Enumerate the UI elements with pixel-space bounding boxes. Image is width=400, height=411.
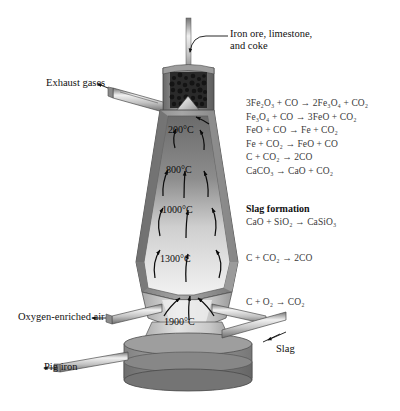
slag-formation-heading: Slag formation — [246, 203, 336, 214]
callout-charge: Iron ore, limestone, and coke — [230, 28, 312, 52]
reaction-line: Fe + CO₂ → FeO + CO — [246, 138, 368, 152]
reaction-line: Fe₃O₄ + CO → 3FeO + CO₂ — [246, 111, 368, 125]
temperature-label-1000c: 1000°C — [162, 204, 193, 215]
reaction-line: 3Fe₂O₃ + CO → 2Fe₃O₄ + CO₂ — [246, 97, 368, 111]
reaction-line: FeO + CO → Fe + CO₂ — [246, 124, 368, 138]
slag-formation-block: Slag formation CaO + SiO₂ → CaSiO₃ — [246, 203, 336, 230]
exhaust-gas-pipe — [108, 87, 163, 112]
callout-oxygen-enriched-air: Oxygen-enriched air — [18, 311, 105, 323]
callout-slag: Slag — [276, 343, 295, 355]
callout-charge-line1: Iron ore, limestone, — [230, 28, 312, 40]
callout-charge-line2: and coke — [230, 40, 312, 52]
blast-furnace-figure: Iron ore, limestone, and coke Exhaust ga… — [0, 0, 400, 411]
slag-formation-equation: CaO + SiO₂ → CaSiO₃ — [246, 216, 336, 230]
boudouard-equation: C + CO₂ → 2CO — [246, 252, 312, 266]
combustion-equation: C + O₂ → CO₂ — [246, 296, 305, 310]
temperature-label-200c: 200°C — [168, 124, 194, 135]
callout-exhaust-gases: Exhaust gases — [46, 77, 105, 89]
temperature-label-800c: 800°C — [166, 164, 192, 175]
reduction-reactions-block: 3Fe₂O₃ + CO → 2Fe₃O₄ + CO₂ Fe₃O₄ + CO → … — [246, 97, 368, 178]
reaction-line: CaCO₃ → CaO + CO₂ — [246, 165, 368, 179]
temperature-label-1900c: 1900°C — [164, 316, 195, 327]
furnace-artwork — [0, 0, 400, 411]
leader-charge — [190, 36, 228, 52]
callout-pig-iron: Pig iron — [44, 361, 78, 373]
tuyere-pipe-left — [106, 304, 162, 324]
temperature-label-1300c: 1300°C — [160, 253, 191, 264]
slag-leader — [263, 334, 280, 342]
reaction-line: C + CO₂ → 2CO — [246, 151, 368, 165]
